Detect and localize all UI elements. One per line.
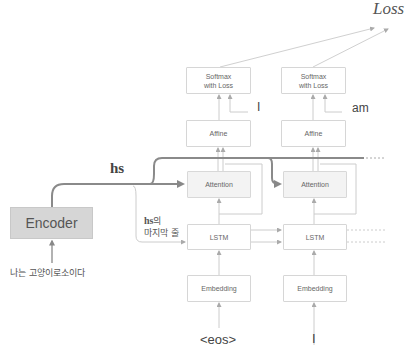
embedding-2: Embedding xyxy=(283,275,347,302)
encoder-box: Encoder xyxy=(10,207,93,239)
input-label-2: I xyxy=(312,331,316,346)
softmax-with-loss-1: Softmax with Loss xyxy=(186,67,251,94)
target-label-1: I xyxy=(257,100,260,114)
affine-1: Affine xyxy=(186,120,251,147)
embedding-1: Embedding xyxy=(187,275,251,302)
hs-line xyxy=(52,184,183,207)
attention-1: Attention xyxy=(187,171,251,198)
encoder-input-label: 나는 고양이로소이다 xyxy=(10,266,85,279)
hs-last-row-label: hs의 마지막 줄 xyxy=(144,215,179,239)
attention-2: Attention xyxy=(283,171,347,198)
hs-label: hs xyxy=(110,160,124,177)
lstm-1: LSTM xyxy=(187,224,251,250)
softmax-with-loss-2: Softmax with Loss xyxy=(281,67,346,94)
loss-title: Loss xyxy=(373,0,404,19)
target-label-2: am xyxy=(352,101,369,115)
affine-2: Affine xyxy=(281,120,346,147)
loss-line-2 xyxy=(313,29,388,67)
hs-last-line2: 마지막 줄 xyxy=(144,228,179,238)
input-label-1: <eos> xyxy=(200,332,236,347)
lstm-2: LSTM xyxy=(283,224,347,250)
hs-last-suffix: 의 xyxy=(153,216,161,226)
